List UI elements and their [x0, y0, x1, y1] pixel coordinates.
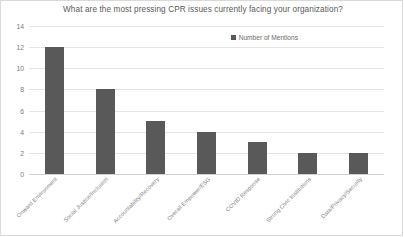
x-label-slot: Overall Empower/ESG — [181, 174, 232, 236]
y-axis-tick-label: 4 — [20, 128, 24, 135]
x-axis-labels: Onward EnvironmentSocial Justice/Inclusi… — [29, 174, 384, 236]
chart-container: What are the most pressing CPR issues cu… — [0, 0, 403, 236]
x-label-slot: Accountability/Recovery — [130, 174, 181, 236]
bar[interactable] — [298, 153, 317, 174]
x-label-slot: Onward Environment — [29, 174, 80, 236]
bar-slot — [181, 26, 232, 174]
plot-area: 02468101214 — [29, 26, 384, 174]
bar[interactable] — [146, 121, 165, 174]
x-label-slot: Strong Civic Institutions — [283, 174, 334, 236]
bar-slot — [283, 26, 334, 174]
bar-slot — [333, 26, 384, 174]
bar-slot — [80, 26, 131, 174]
bar-slot — [130, 26, 181, 174]
x-label-slot: Social Justice/Inclusion — [80, 174, 131, 236]
bar-series — [29, 26, 384, 174]
x-label-slot: COVID Response — [232, 174, 283, 236]
y-axis-tick-label: 12 — [16, 44, 24, 51]
x-axis-category-label: Onward Environment — [16, 176, 59, 219]
y-axis-tick-label: 0 — [20, 171, 24, 178]
y-axis-tick-label: 2 — [20, 149, 24, 156]
y-axis-tick-label: 8 — [20, 86, 24, 93]
bar[interactable] — [349, 153, 368, 174]
bar-slot — [232, 26, 283, 174]
x-label-slot: Data/Privacy/Security — [333, 174, 384, 236]
bar-slot — [29, 26, 80, 174]
y-axis-tick-label: 10 — [16, 65, 24, 72]
bar[interactable] — [96, 89, 115, 174]
chart-title: What are the most pressing CPR issues cu… — [1, 5, 403, 14]
y-axis-tick-label: 6 — [20, 107, 24, 114]
y-axis-tick-label: 14 — [16, 23, 24, 30]
bar[interactable] — [197, 132, 216, 174]
bar[interactable] — [248, 142, 267, 174]
bar[interactable] — [45, 47, 64, 174]
